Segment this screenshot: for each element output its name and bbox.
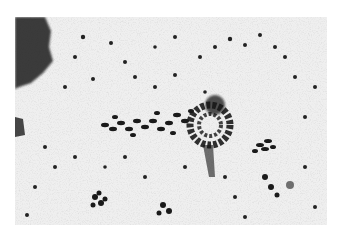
micrograph-image — [15, 17, 327, 225]
tissue-section — [15, 17, 327, 225]
